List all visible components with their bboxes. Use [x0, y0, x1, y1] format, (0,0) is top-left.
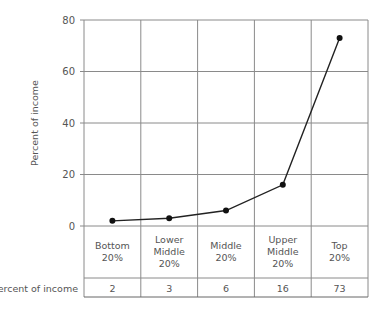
category-label: Top: [331, 240, 348, 251]
table-value: 3: [166, 283, 172, 294]
data-line: [112, 38, 339, 221]
data-point: [337, 35, 343, 41]
table-value: 16: [277, 283, 289, 294]
category-label: 20%: [159, 258, 180, 269]
y-axis-label: Percent of income: [29, 80, 40, 166]
category-label: Upper: [268, 234, 297, 245]
y-tick-label: 20: [62, 169, 75, 180]
table-value: 6: [223, 283, 229, 294]
category-label: Middle: [210, 240, 242, 251]
data-point: [109, 218, 115, 224]
category-label: Middle: [267, 246, 299, 257]
y-tick-label: 60: [62, 66, 75, 77]
table-value: 73: [334, 283, 346, 294]
category-label: Lower: [155, 234, 184, 245]
data-point: [280, 182, 286, 188]
category-label: 20%: [215, 252, 236, 263]
table-row-label: Percent of income: [0, 283, 78, 294]
category-label: 20%: [329, 252, 350, 263]
data-point: [223, 208, 229, 214]
y-tick-label: 0: [69, 221, 75, 232]
category-label: Bottom: [95, 240, 130, 251]
data-point: [166, 215, 172, 221]
line-chart: 020406080Percent of incomeBottom20%Lower…: [0, 0, 389, 313]
category-label: Middle: [154, 246, 186, 257]
table-value: 2: [109, 283, 115, 294]
category-label: 20%: [102, 252, 123, 263]
category-label: 20%: [272, 258, 293, 269]
y-tick-label: 40: [62, 118, 75, 129]
y-tick-label: 80: [62, 15, 75, 26]
